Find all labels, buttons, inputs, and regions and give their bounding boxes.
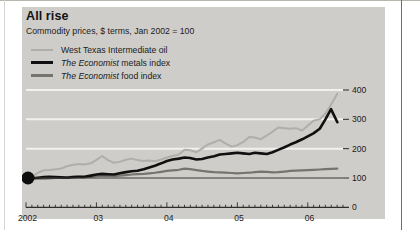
x-tick-label-05: 05 (234, 213, 244, 223)
legend-swatch-food (31, 74, 53, 77)
legend-item-oil: West Texas Intermediate oil (31, 44, 281, 56)
x-tick-label-04: 04 (164, 213, 174, 223)
legend-label-metals: The Economist metals index (61, 57, 170, 69)
legend-item-metals: The Economist metals index (31, 57, 281, 69)
chart-title: All rise (26, 9, 69, 23)
left-rule (4, 0, 5, 230)
x-tick-label-03: 03 (93, 213, 103, 223)
y-tick-label-400: 400 (352, 85, 366, 95)
y-tick-label-200: 200 (352, 144, 366, 154)
y-tick-label-0: 0 (352, 202, 357, 212)
chart-subtitle: Commodity prices, $ terms, Jan 2002 = 10… (26, 26, 194, 36)
right-rule (401, 0, 402, 230)
legend-swatch-oil (31, 49, 53, 51)
chart-figure: All rise Commodity prices, $ terms, Jan … (0, 0, 420, 230)
x-tick-label-2002: 2002 (18, 213, 37, 223)
chart-legend: West Texas Intermediate oilThe Economist… (31, 44, 281, 83)
series-line (26, 94, 337, 178)
y-tick-label-100: 100 (352, 173, 366, 183)
legend-swatch-metals (31, 61, 53, 64)
x-tick-label-06: 06 (305, 213, 315, 223)
legend-item-food: The Economist food index (31, 70, 281, 82)
origin-marker-dot (22, 172, 35, 185)
plot-svg (22, 7, 385, 219)
plot-area (22, 7, 385, 219)
y-tick-label-300: 300 (352, 114, 366, 124)
legend-label-food: The Economist food index (61, 70, 161, 82)
legend-label-oil: West Texas Intermediate oil (61, 44, 167, 56)
top-rule (0, 0, 420, 1)
